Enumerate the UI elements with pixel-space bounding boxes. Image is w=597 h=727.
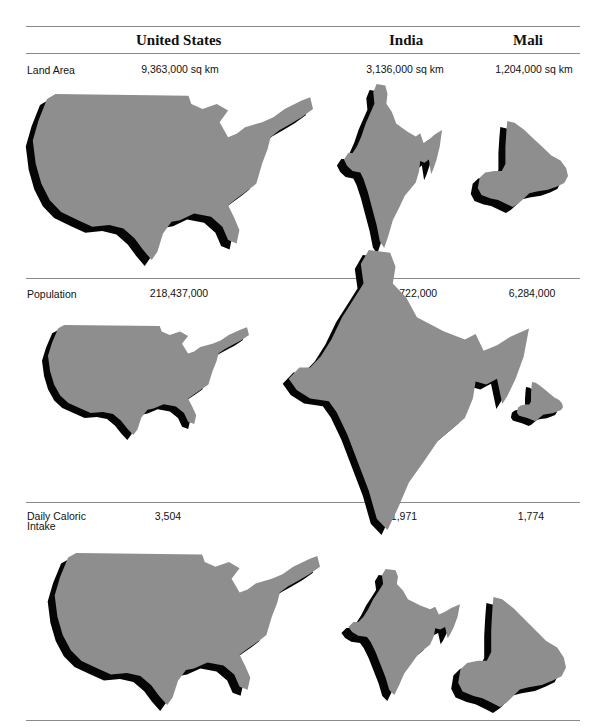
- map-land-us: [48, 325, 249, 435]
- map-us-population: [42, 325, 249, 440]
- map-us-land-area: [26, 94, 313, 266]
- cartogram-maps: [0, 0, 597, 727]
- map-us-caloric: [48, 553, 320, 711]
- map-india-population: [283, 250, 529, 535]
- map-land-mali: [478, 121, 568, 207]
- map-mali-land-area: [471, 121, 568, 213]
- map-mali-caloric: [451, 597, 566, 713]
- map-land-mali: [517, 382, 563, 421]
- map-land-us: [55, 553, 320, 705]
- map-land-mali: [458, 597, 566, 707]
- map-india-caloric: [341, 569, 460, 701]
- map-mali-population: [511, 382, 563, 426]
- map-india-land-area: [337, 84, 442, 254]
- map-land-us: [33, 94, 313, 260]
